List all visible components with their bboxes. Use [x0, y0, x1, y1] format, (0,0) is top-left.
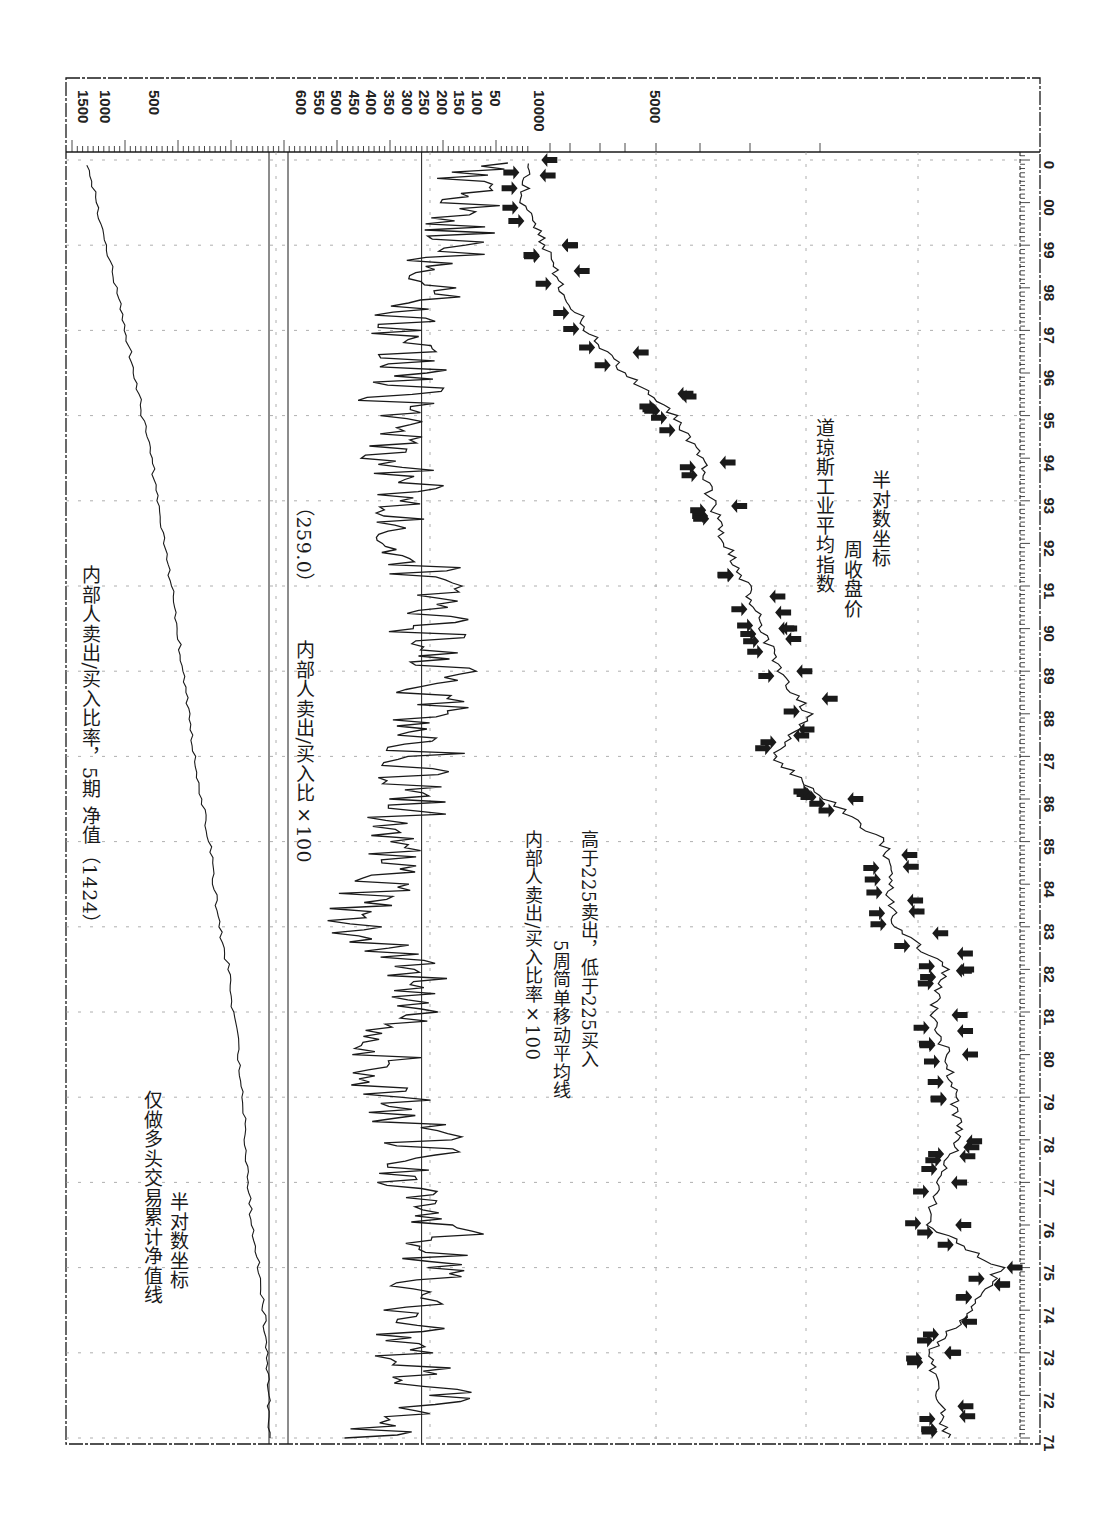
ratio-axis-tick: 100 — [469, 90, 486, 115]
year-tick-label: 89 — [1041, 668, 1058, 685]
year-tick-label: 85 — [1041, 838, 1058, 855]
sell-arrow-icon — [903, 860, 919, 874]
year-tick-label: 76 — [1041, 1222, 1058, 1239]
ratio-axis-tick: 200 — [434, 90, 451, 115]
buy-arrow-icon — [523, 248, 539, 262]
buy-arrow-icon — [969, 1272, 985, 1286]
year-tick-label: 96 — [1041, 370, 1058, 387]
buy-arrow-icon — [758, 669, 774, 683]
equity-label: 仅做多头交易累计净值线 — [140, 1090, 164, 1305]
sell-arrow-icon — [796, 664, 812, 678]
buy-arrow-icon — [928, 1075, 944, 1089]
sell-arrow-icon — [909, 905, 925, 919]
gridlines — [66, 152, 1020, 1444]
djia-line — [520, 164, 1005, 1439]
year-tick-label: 71 — [1041, 1435, 1058, 1452]
ratio-axis-tick: 250 — [416, 90, 433, 115]
year-tick-label: 95 — [1041, 412, 1058, 429]
sell-arrow-icon — [957, 1399, 973, 1413]
sell-arrow-icon — [951, 1175, 967, 1189]
sell-arrow-icon — [952, 1008, 968, 1022]
ratio-axis-tick: 50 — [487, 90, 504, 107]
buy-arrow-icon — [869, 906, 885, 920]
year-tick-label: 99 — [1041, 242, 1058, 259]
ratio-axis-tick: 600 — [293, 90, 310, 115]
buy-arrow-icon — [659, 423, 675, 437]
sell-arrow-icon — [955, 1218, 971, 1232]
year-tick-label: 91 — [1041, 583, 1058, 600]
year-tick-label: 97 — [1041, 327, 1058, 344]
sell-arrow-icon — [907, 893, 923, 907]
ratio-label: 内部人卖出/买入比×100 — [292, 640, 316, 863]
buy-arrow-icon — [563, 322, 579, 336]
buy-arrow-icon — [503, 166, 519, 180]
buy-arrow-icon — [921, 1162, 937, 1176]
djia-sublabel: 周收盘价 — [840, 540, 864, 618]
djia-axis-tick: 10000 — [531, 90, 548, 132]
year-tick-label: 72 — [1041, 1392, 1058, 1409]
year-tick-label: 84 — [1041, 881, 1058, 898]
ratio-axis-tick: 300 — [399, 90, 416, 115]
year-tick-label: 77 — [1041, 1179, 1058, 1196]
sell-arrow-icon — [822, 692, 838, 706]
buy-arrow-icon — [863, 861, 879, 875]
djia-axis-tick: 5000 — [647, 90, 664, 123]
ratio-threshold-value: （259.0） — [292, 497, 316, 593]
sell-arrow-icon — [561, 238, 577, 252]
year-tick-label: 87 — [1041, 753, 1058, 770]
sell-arrow-icon — [961, 1315, 977, 1329]
djia-scale-note: 半对数坐标 — [868, 470, 892, 568]
sell-arrow-icon — [720, 456, 736, 470]
buy-arrow-icon — [919, 1412, 935, 1426]
value-axes: 1500100050060055050045040035030025020015… — [72, 90, 820, 152]
sell-arrow-icon — [540, 169, 556, 183]
ratio-axis-tick: 450 — [346, 90, 363, 115]
buy-arrow-icon — [938, 1238, 954, 1252]
year-tick-label: 74 — [1041, 1307, 1058, 1324]
year-tick-label: 78 — [1041, 1136, 1058, 1153]
sell-arrow-icon — [932, 926, 948, 940]
buy-arrow-icon — [924, 1054, 940, 1068]
year-tick-label: 75 — [1041, 1264, 1058, 1281]
sell-arrow-icon — [775, 606, 791, 620]
insider-ratio-line — [328, 163, 508, 1438]
sell-arrow-icon — [957, 1024, 973, 1038]
main-title: 内部人卖出/买入比率，5期 净值（1424） — [78, 565, 102, 934]
year-tick-label: 82 — [1041, 966, 1058, 983]
year-tick-label: 80 — [1041, 1051, 1058, 1068]
ratio-axis-tick: 350 — [381, 90, 398, 115]
chart-svg: 1500100050060055050045040035030025020015… — [0, 0, 1106, 1531]
sell-arrow-icon — [785, 632, 801, 646]
ratio-axis-tick: 500 — [328, 90, 345, 115]
ma-label-2: 5周简单移动平均线 — [548, 940, 572, 1100]
sell-arrow-icon — [957, 946, 973, 960]
buy-arrow-icon — [747, 645, 763, 659]
year-tick-label: 81 — [1041, 1009, 1058, 1026]
equity-scale-note: 半对数坐标 — [166, 1192, 190, 1290]
year-tick-label: 92 — [1041, 540, 1058, 557]
buy-arrow-icon — [913, 1184, 929, 1198]
buy-arrow-icon — [502, 201, 518, 215]
buy-arrow-icon — [595, 358, 611, 372]
buy-arrow-icon — [579, 340, 595, 354]
sell-arrow-icon — [944, 1346, 960, 1360]
sell-arrow-icon — [901, 848, 917, 862]
year-tick-label: 98 — [1041, 284, 1058, 301]
equity-axis-tick: 500 — [146, 90, 163, 115]
ratio-axis-tick: 550 — [311, 90, 328, 115]
buy-arrow-icon — [731, 602, 747, 616]
buy-arrow-icon — [717, 568, 733, 582]
buy-arrow-icon — [866, 885, 882, 899]
sell-arrow-icon — [959, 1409, 975, 1423]
buy-arrow-icon — [502, 181, 518, 195]
year-tick-label: 73 — [1041, 1349, 1058, 1366]
sell-arrow-icon — [574, 264, 590, 278]
year-tick-label: 94 — [1041, 455, 1058, 472]
buy-arrow-icon — [894, 939, 910, 953]
ratio-axis-tick: 400 — [363, 90, 380, 115]
equity-axis-tick: 1000 — [97, 90, 114, 123]
buy-arrow-icon — [865, 872, 881, 886]
trade-arrows — [502, 153, 1023, 1438]
buy-arrow-icon — [905, 1216, 921, 1230]
year-tick-label: 83 — [1041, 923, 1058, 940]
